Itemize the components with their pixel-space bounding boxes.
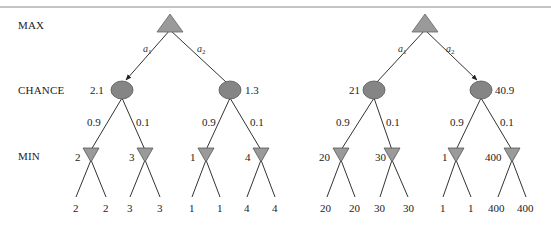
min-value: 3 bbox=[129, 151, 135, 163]
leaf-value: 1 bbox=[189, 202, 195, 214]
min-node-1 bbox=[83, 148, 99, 162]
leaf-value: 400 bbox=[517, 202, 534, 214]
chance-value-1: 21 bbox=[349, 84, 360, 96]
prob-label: 0.1 bbox=[386, 116, 400, 128]
min-value: 20 bbox=[319, 151, 331, 163]
leaf-value: 1 bbox=[217, 202, 223, 214]
leaf-value: 4 bbox=[244, 202, 250, 214]
min-node-2 bbox=[137, 148, 153, 162]
row-label-min: MIN bbox=[18, 150, 40, 162]
edge-a1 bbox=[377, 30, 425, 82]
action-label-a1: a1 bbox=[143, 43, 152, 56]
leaf-value: 2 bbox=[103, 202, 109, 214]
leaf-value: 400 bbox=[488, 202, 505, 214]
leaf-value: 20 bbox=[320, 202, 332, 214]
chance-node-1 bbox=[363, 81, 385, 99]
min-node-4 bbox=[504, 148, 520, 162]
prob-label: 0.9 bbox=[87, 116, 101, 128]
leaf-value: 30 bbox=[374, 202, 386, 214]
chance-node-2 bbox=[470, 81, 492, 99]
min-value: 1 bbox=[190, 151, 196, 163]
edge-a2 bbox=[170, 30, 226, 82]
chance-value-2: 1.3 bbox=[245, 84, 259, 96]
leaf-value: 30 bbox=[403, 202, 415, 214]
min-node-1 bbox=[333, 148, 349, 162]
tree-left: a1 a2 2.1 1.3 0.9 0.1 0.9 0.1 2 3 1 bbox=[73, 14, 278, 214]
chance-node-2 bbox=[219, 81, 241, 99]
row-label-chance: CHANCE bbox=[18, 84, 65, 96]
tree-right: a1 a2 21 40.9 0.9 0.1 0.9 0.1 20 30 1 40… bbox=[319, 14, 534, 214]
prob-label: 0.9 bbox=[202, 116, 216, 128]
leaf-value: 2 bbox=[73, 202, 79, 214]
action-label-a2: a2 bbox=[197, 43, 206, 56]
prob-label: 0.1 bbox=[500, 116, 514, 128]
min-node-4 bbox=[253, 148, 269, 162]
chance-node-1 bbox=[111, 81, 133, 99]
chance-value-2: 40.9 bbox=[495, 84, 515, 96]
prob-label: 0.1 bbox=[250, 116, 264, 128]
leaf-value: 3 bbox=[127, 202, 133, 214]
action-label-a2: a2 bbox=[446, 43, 455, 56]
min-value: 2 bbox=[75, 151, 81, 163]
prob-label: 0.9 bbox=[336, 116, 350, 128]
min-value: 400 bbox=[485, 151, 502, 163]
leaf-value: 4 bbox=[272, 202, 278, 214]
action-label-a1: a1 bbox=[398, 43, 407, 56]
leaf-value: 1 bbox=[440, 202, 446, 214]
min-node-3 bbox=[198, 148, 214, 162]
row-label-max: MAX bbox=[18, 19, 44, 31]
leaf-value: 3 bbox=[157, 202, 163, 214]
leaf-value: 1 bbox=[468, 202, 474, 214]
prob-label: 0.1 bbox=[136, 116, 150, 128]
max-node bbox=[157, 14, 183, 32]
chance-value-1: 2.1 bbox=[90, 84, 104, 96]
prob-label: 0.9 bbox=[450, 116, 464, 128]
min-node-3 bbox=[448, 148, 464, 162]
min-node-2 bbox=[384, 148, 400, 162]
min-value: 1 bbox=[442, 151, 448, 163]
expectiminimax-diagram: MAX CHANCE MIN a1 a2 2.1 1.3 0.9 0.1 0.9… bbox=[0, 0, 551, 226]
min-value: 4 bbox=[245, 151, 251, 163]
leaf-value: 20 bbox=[349, 202, 361, 214]
max-node bbox=[412, 14, 438, 32]
min-value: 30 bbox=[375, 151, 387, 163]
